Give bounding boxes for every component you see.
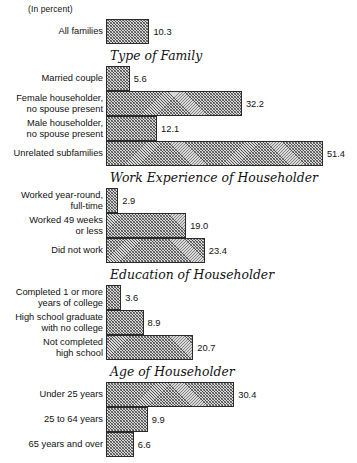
bar-category-label: 65 years and over: [0, 439, 106, 449]
bar: [106, 141, 323, 166]
bar-value-label: 23.4: [209, 246, 227, 256]
bar-value-label: 3.6: [125, 293, 138, 303]
bar-value-label: 30.4: [238, 390, 256, 400]
section-heading: Education of Householder: [110, 267, 274, 282]
bar-category-label: Unrelated subfamilies: [0, 148, 106, 158]
bar-track: 12.1: [106, 116, 357, 141]
bar: [106, 91, 242, 116]
bar-value-label: 10.3: [153, 27, 171, 37]
bar-track: 3.6: [106, 285, 357, 310]
bar-value-label: 8.9: [148, 318, 161, 328]
bar-value-label: 12.1: [161, 124, 179, 134]
bar-category-label: Did not work: [0, 245, 106, 255]
bar-track: 20.7: [106, 335, 357, 360]
bar-category-label: Worked year-round, full-time: [0, 190, 106, 210]
bar-row: 25 to 64 years9.9: [0, 407, 357, 432]
bar-row: Completed 1 or more years of college3.6: [0, 285, 357, 310]
bar-track: 5.6: [106, 66, 357, 91]
bar-track: 51.4: [106, 141, 357, 166]
bar-category-label: Not completed high school: [0, 337, 106, 357]
bar-category-label: Female householder, no spouse present: [0, 93, 106, 113]
bar-row: Worked year-round, full-time2.9: [0, 188, 357, 213]
bar: [106, 407, 148, 432]
bar-row: Worked 49 weeks or less19.0: [0, 213, 357, 238]
bar-row: 65 years and over6.6: [0, 432, 357, 457]
bar-track: 8.9: [106, 310, 357, 335]
bar: [106, 19, 149, 44]
bar-value-label: 9.9: [152, 415, 165, 425]
bar-row: Married couple5.6: [0, 66, 357, 91]
bar-category-label: Married couple: [0, 73, 106, 83]
section-heading: Age of Householder: [110, 364, 235, 379]
bar-category-label: 25 to 64 years: [0, 414, 106, 424]
bar-track: 6.6: [106, 432, 357, 457]
bar-row: All families10.3: [0, 19, 357, 44]
bar-value-label: 51.4: [327, 149, 345, 159]
bar-track: 23.4: [106, 238, 357, 263]
bar-category-label: All families: [0, 26, 106, 36]
bar-row: Male householder, no spouse present12.1: [0, 116, 357, 141]
bar-row: Unrelated subfamilies51.4: [0, 141, 357, 166]
bar-value-label: 19.0: [190, 221, 208, 231]
bar-category-label: Under 25 years: [0, 389, 106, 399]
bar-row: High school graduate with no college8.9: [0, 310, 357, 335]
bar-track: 32.2: [106, 91, 357, 116]
bar: [106, 213, 186, 238]
bar-track: 10.3: [106, 19, 357, 44]
bar-chart: (In percent) All families10.3Type of Fam…: [0, 0, 357, 463]
bar: [106, 382, 234, 407]
bar-value-label: 6.6: [138, 440, 151, 450]
bar: [106, 238, 205, 263]
unit-note: (In percent): [28, 4, 73, 14]
bar-category-label: Completed 1 or more years of college: [0, 287, 106, 307]
section-heading: Work Experience of Householder: [110, 170, 318, 185]
bar-value-label: 2.9: [122, 196, 135, 206]
bar-track: 2.9: [106, 188, 357, 213]
bar-value-label: 20.7: [197, 343, 215, 353]
bar-row: Under 25 years30.4: [0, 382, 357, 407]
section-heading: Type of Family: [110, 48, 202, 63]
bar: [106, 285, 121, 310]
bar: [106, 310, 144, 335]
bar-value-label: 5.6: [134, 74, 147, 84]
bar: [106, 66, 130, 91]
bar: [106, 188, 118, 213]
bar-row: Did not work23.4: [0, 238, 357, 263]
bar-row: Not completed high school20.7: [0, 335, 357, 360]
bar-category-label: High school graduate with no college: [0, 312, 106, 332]
bar-category-label: Worked 49 weeks or less: [0, 215, 106, 235]
bar-category-label: Male householder, no spouse present: [0, 118, 106, 138]
bar-track: 19.0: [106, 213, 357, 238]
bar: [106, 335, 193, 360]
bar: [106, 116, 157, 141]
bar-row: Female householder, no spouse present32.…: [0, 91, 357, 116]
bar-track: 30.4: [106, 382, 357, 407]
bar-value-label: 32.2: [246, 99, 264, 109]
bar-track: 9.9: [106, 407, 357, 432]
bar: [106, 432, 134, 457]
